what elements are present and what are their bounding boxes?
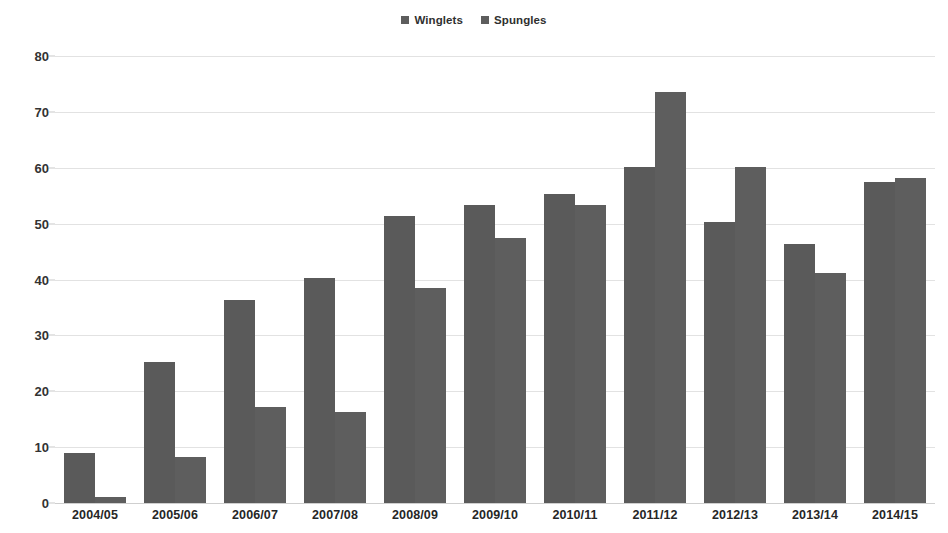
y-axis-tick-label: 80 [3,49,49,64]
y-axis-tick-label: 0 [3,496,49,511]
legend-label-spungles: Spungles [494,14,547,26]
y-axis-tick-label: 60 [3,160,49,175]
bar-group [855,56,935,503]
bar-winglets[interactable] [544,194,575,503]
bar-group [535,56,615,503]
bar-spungles[interactable] [575,205,606,503]
x-axis-tick-label: 2011/12 [615,508,695,530]
plot-area [55,56,935,503]
bar-group [55,56,135,503]
legend-swatch-spungles [481,16,489,24]
x-axis-tick-label: 2014/15 [855,508,935,530]
bar-group [295,56,375,503]
chart-page: Winglets Spungles 80706050403020100 2004… [0,0,948,533]
bar-spungles[interactable] [255,407,286,503]
bar-spungles[interactable] [335,412,366,503]
x-axis-tick-label: 2010/11 [535,508,615,530]
bar-winglets[interactable] [624,167,655,503]
bar-spungles[interactable] [495,238,526,503]
bar-spungles[interactable] [895,178,926,503]
y-axis-tick-label: 30 [3,328,49,343]
bar-winglets[interactable] [144,362,175,503]
y-axis-tick-label: 40 [3,272,49,287]
bar-spungles[interactable] [655,92,686,503]
bar-winglets[interactable] [224,300,255,503]
x-axis-tick-label: 2013/14 [775,508,855,530]
x-axis-tick-label: 2012/13 [695,508,775,530]
x-axis: 2004/052005/062006/072007/082008/092009/… [55,508,935,530]
y-axis-tick-label: 70 [3,104,49,119]
bar-winglets[interactable] [704,222,735,503]
chart-legend: Winglets Spungles [0,14,948,26]
x-axis-tick-label: 2004/05 [55,508,135,530]
bar-winglets[interactable] [64,453,95,503]
bar-group [455,56,535,503]
bar-group [695,56,775,503]
bar-spungles[interactable] [415,288,446,503]
bar-group [375,56,455,503]
bar-winglets[interactable] [864,182,895,503]
bar-spungles[interactable] [735,167,766,503]
bar-group [135,56,215,503]
x-axis-tick-label: 2005/06 [135,508,215,530]
bar-winglets[interactable] [384,216,415,503]
x-axis-tick-label: 2008/09 [375,508,455,530]
y-axis: 80706050403020100 [0,56,49,503]
bar-winglets[interactable] [784,244,815,503]
bar-group [615,56,695,503]
bar-spungles[interactable] [175,457,206,503]
bar-winglets[interactable] [304,278,335,503]
bar-winglets[interactable] [464,205,495,503]
x-axis-tick-label: 2006/07 [215,508,295,530]
bar-group [215,56,295,503]
bar-group [775,56,855,503]
y-axis-tick-label: 10 [3,440,49,455]
bar-groups [55,56,935,503]
gridline [55,503,935,504]
x-axis-tick-label: 2007/08 [295,508,375,530]
legend-item-spungles[interactable]: Spungles [481,14,547,26]
legend-item-winglets[interactable]: Winglets [401,14,463,26]
y-axis-tick-label: 20 [3,384,49,399]
legend-swatch-winglets [401,16,409,24]
y-axis-tick-label: 50 [3,216,49,231]
x-axis-tick-label: 2009/10 [455,508,535,530]
bar-spungles[interactable] [815,273,846,503]
bar-spungles[interactable] [95,497,126,503]
legend-label-winglets: Winglets [414,14,463,26]
